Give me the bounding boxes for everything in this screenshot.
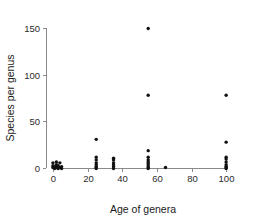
y-tick-label: 50	[29, 116, 40, 127]
data-point	[58, 161, 61, 164]
data-point	[55, 160, 58, 163]
x-axis-title: Age of genera	[110, 203, 176, 215]
y-tick-label: 100	[24, 70, 40, 81]
y-tick-label: 150	[24, 23, 40, 34]
x-tick-label: 20	[83, 173, 94, 184]
scatter-plot-figure: 050100150 020406080100 Age of genera Spe…	[0, 0, 265, 224]
data-point	[95, 138, 98, 141]
y-axis-title: Species per genus	[4, 55, 16, 142]
data-point	[146, 27, 149, 30]
data-point	[112, 167, 115, 170]
data-point	[146, 93, 149, 96]
x-tick-label: 0	[51, 173, 56, 184]
data-point	[224, 93, 227, 96]
x-tick-label: 60	[152, 173, 163, 184]
x-tick-label: 40	[117, 173, 128, 184]
data-point	[51, 161, 54, 164]
x-tick-label: 80	[187, 173, 198, 184]
plot-canvas: 050100150 020406080100 Age of genera Spe…	[0, 0, 265, 224]
data-point	[224, 167, 227, 170]
data-point	[95, 166, 98, 169]
data-point	[164, 166, 167, 169]
y-tick-label: 0	[35, 163, 40, 174]
data-point	[224, 140, 227, 143]
data-point	[146, 149, 149, 152]
data-point	[146, 167, 149, 170]
x-tick-label: 100	[219, 173, 235, 184]
data-point	[60, 165, 63, 168]
